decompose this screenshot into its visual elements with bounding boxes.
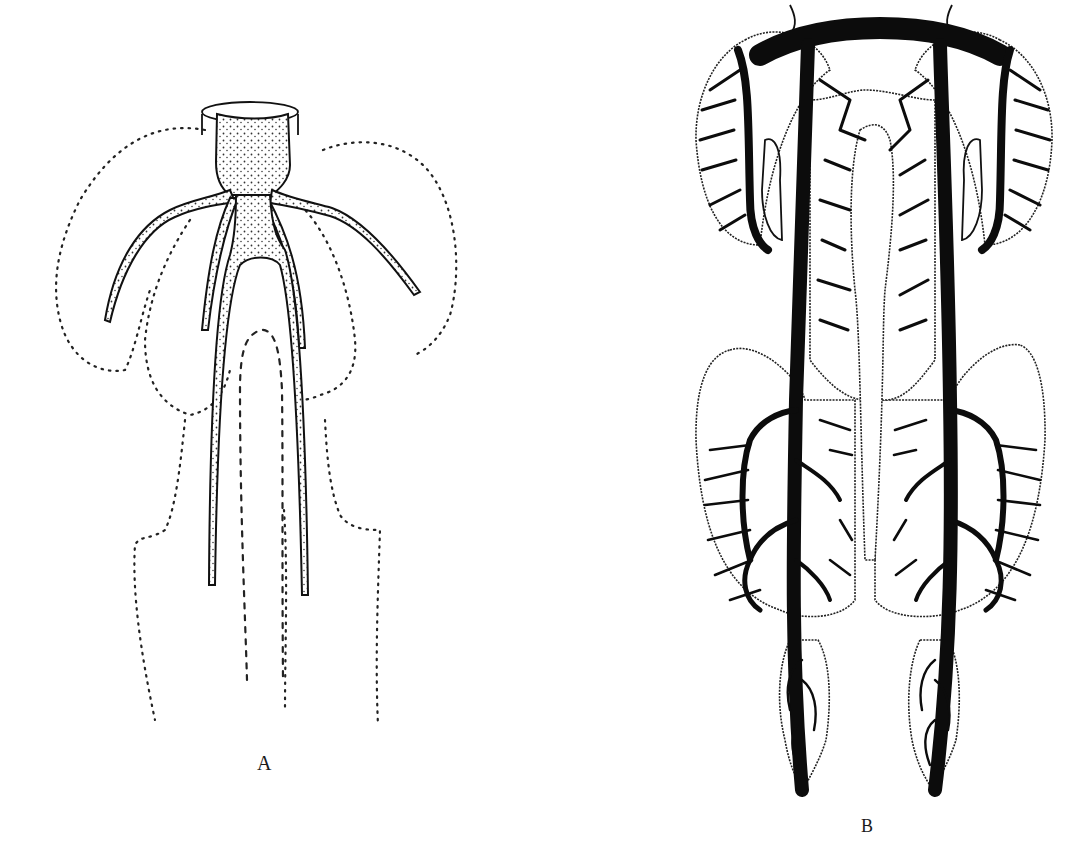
- figure-a-drawing: [40, 90, 480, 740]
- figure-label-b: B: [861, 816, 873, 837]
- figure-a-svg: [40, 90, 480, 740]
- figure-label-a: A: [257, 752, 271, 775]
- figure-b-drawing: [690, 0, 1070, 800]
- figure-b-svg: [690, 0, 1070, 800]
